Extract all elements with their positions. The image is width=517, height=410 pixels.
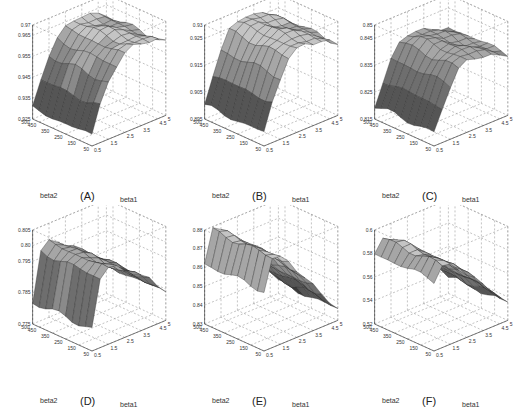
svg-text:150: 150 (239, 140, 248, 146)
svg-text:150: 150 (239, 345, 248, 351)
svg-text:4.5: 4.5 (332, 120, 339, 126)
svg-text:0.5: 0.5 (436, 147, 443, 153)
svg-text:4.5: 4.5 (160, 120, 167, 126)
svg-text:0.935: 0.935 (18, 95, 31, 101)
svg-text:beta2: beta2 (40, 192, 58, 199)
svg-text:beta1: beta1 (120, 196, 138, 203)
svg-text:0.88: 0.88 (193, 227, 203, 233)
svg-text:0.785: 0.785 (18, 289, 31, 295)
svg-text:0.54: 0.54 (363, 297, 373, 303)
svg-text:250: 250 (54, 134, 63, 140)
surface-plot-d: 0.7750.7850.7950.800.8055015025035045050… (0, 205, 172, 410)
svg-text:500: 500 (363, 324, 372, 330)
svg-text:500: 500 (193, 324, 202, 330)
svg-text:350: 350 (383, 333, 392, 339)
svg-text:0.93: 0.93 (193, 22, 203, 28)
svg-text:beta1: beta1 (462, 401, 480, 408)
svg-text:beta2: beta2 (212, 397, 230, 404)
svg-text:500: 500 (363, 119, 372, 125)
svg-text:3.5: 3.5 (143, 332, 150, 338)
svg-text:beta2: beta2 (382, 397, 400, 404)
svg-text:3.5: 3.5 (485, 127, 492, 133)
svg-text:0.5: 0.5 (94, 352, 101, 358)
svg-text:0.85: 0.85 (193, 283, 203, 289)
svg-text:2.5: 2.5 (469, 133, 476, 139)
svg-text:2.5: 2.5 (127, 338, 134, 344)
svg-text:1.5: 1.5 (282, 345, 289, 351)
svg-text:1.5: 1.5 (110, 345, 117, 351)
svg-text:250: 250 (226, 339, 235, 345)
svg-text:0.6: 0.6 (366, 227, 373, 233)
svg-text:350: 350 (383, 128, 392, 134)
svg-text:250: 250 (226, 134, 235, 140)
svg-text:0.955: 0.955 (18, 53, 31, 59)
svg-text:0.825: 0.825 (360, 89, 373, 95)
svg-text:350: 350 (41, 333, 50, 339)
svg-text:4.5: 4.5 (502, 120, 509, 126)
panel-label-b: (B) (252, 190, 267, 202)
panel-label-f: (F) (422, 395, 436, 407)
svg-text:1.5: 1.5 (452, 140, 459, 146)
surface-plot-a: 0.9250.9350.9450.9550.9650.9750150250350… (0, 0, 172, 205)
svg-text:350: 350 (213, 333, 222, 339)
svg-text:50: 50 (83, 146, 89, 152)
svg-text:4.5: 4.5 (160, 325, 167, 331)
svg-text:3.5: 3.5 (315, 332, 322, 338)
surface-plot-c: 0.8150.8250.8350.8450.855015025035045050… (342, 0, 514, 205)
svg-text:5: 5 (168, 321, 171, 327)
svg-text:0.965: 0.965 (18, 32, 31, 38)
svg-text:2.5: 2.5 (299, 133, 306, 139)
svg-text:0.5: 0.5 (266, 352, 273, 358)
svg-text:2.5: 2.5 (469, 338, 476, 344)
svg-text:50: 50 (255, 146, 261, 152)
svg-text:2.5: 2.5 (127, 133, 134, 139)
svg-text:0.795: 0.795 (18, 258, 31, 264)
svg-text:250: 250 (396, 134, 405, 140)
svg-text:5: 5 (168, 116, 171, 122)
svg-text:0.945: 0.945 (18, 74, 31, 80)
svg-text:0.84: 0.84 (193, 302, 203, 308)
svg-text:150: 150 (67, 345, 76, 351)
svg-text:500: 500 (21, 119, 30, 125)
svg-text:beta1: beta1 (292, 196, 310, 203)
svg-text:0.97: 0.97 (21, 22, 31, 28)
svg-text:3.5: 3.5 (315, 127, 322, 133)
svg-text:50: 50 (425, 351, 431, 357)
svg-text:0.905: 0.905 (190, 89, 203, 95)
svg-text:2.5: 2.5 (299, 338, 306, 344)
svg-text:250: 250 (54, 339, 63, 345)
svg-text:0.5: 0.5 (436, 352, 443, 358)
panel-label-d: (D) (80, 395, 95, 407)
svg-text:350: 350 (213, 128, 222, 134)
svg-text:500: 500 (21, 324, 30, 330)
svg-text:beta2: beta2 (212, 192, 230, 199)
svg-text:beta1: beta1 (292, 401, 310, 408)
svg-text:0.87: 0.87 (193, 245, 203, 251)
svg-text:0.86: 0.86 (193, 264, 203, 270)
svg-text:350: 350 (41, 128, 50, 134)
surface-plot-f: 0.520.540.560.580.6501502503504505000.51… (342, 205, 514, 410)
panel-label-c: (C) (422, 190, 437, 202)
svg-text:150: 150 (409, 140, 418, 146)
surface-plot-b: 0.8950.9050.9150.9250.935015025035045050… (172, 0, 344, 205)
svg-text:0.915: 0.915 (190, 62, 203, 68)
svg-text:0.925: 0.925 (190, 35, 203, 41)
svg-text:5: 5 (510, 321, 513, 327)
svg-text:1.5: 1.5 (452, 345, 459, 351)
svg-text:beta2: beta2 (382, 192, 400, 199)
svg-text:0.80: 0.80 (21, 242, 31, 248)
svg-text:0.845: 0.845 (360, 35, 373, 41)
svg-text:4.5: 4.5 (502, 325, 509, 331)
svg-text:1.5: 1.5 (282, 140, 289, 146)
svg-text:150: 150 (67, 140, 76, 146)
svg-text:3.5: 3.5 (485, 332, 492, 338)
surface-plot-grid: 0.9250.9350.9450.9550.9650.9750150250350… (0, 0, 517, 410)
svg-text:150: 150 (409, 345, 418, 351)
svg-text:1.5: 1.5 (110, 140, 117, 146)
svg-text:0.58: 0.58 (363, 250, 373, 256)
svg-text:0.5: 0.5 (94, 147, 101, 153)
svg-text:3.5: 3.5 (143, 127, 150, 133)
svg-text:0.56: 0.56 (363, 274, 373, 280)
svg-text:50: 50 (255, 351, 261, 357)
panel-label-e: (E) (252, 395, 267, 407)
